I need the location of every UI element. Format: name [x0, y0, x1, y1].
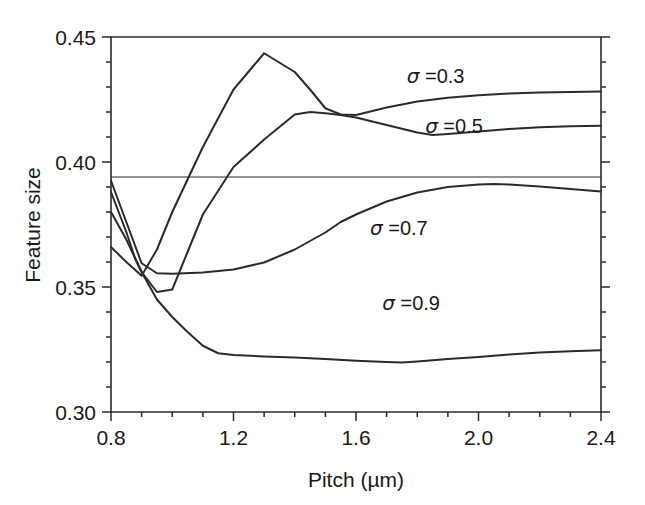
series-label-4: σ =0.9 [382, 291, 440, 315]
figure-container: 0.81.21.62.02.4 0.300.350.400.45 σ =0.3σ… [0, 0, 645, 505]
y-axis-tick-labels: 0.300.350.400.45 [55, 26, 96, 424]
x-axis-title: Pitch (µm) [308, 468, 404, 491]
y-tick-label: 0.30 [55, 401, 96, 424]
curve-series-2 [111, 112, 601, 292]
series-label-3: σ =0.7 [370, 216, 428, 240]
curve-series-4 [111, 212, 601, 363]
x-tick-label: 1.6 [341, 426, 370, 449]
y-tick-label: 0.40 [55, 151, 96, 174]
axis-ticks [102, 37, 610, 421]
series-label-1: σ =0.3 [407, 64, 465, 88]
series-label-2: σ =0.5 [425, 114, 483, 138]
x-tick-label: 2.0 [464, 426, 493, 449]
y-tick-label: 0.35 [55, 276, 96, 299]
x-tick-label: 2.4 [586, 426, 616, 449]
data-curves [111, 53, 601, 362]
y-axis-title: Feature size [21, 167, 44, 283]
x-axis-tick-labels: 0.81.21.62.02.4 [96, 426, 616, 449]
y-tick-label: 0.45 [55, 26, 96, 49]
feature-size-vs-pitch-chart: 0.81.21.62.02.4 0.300.350.400.45 σ =0.3σ… [0, 0, 645, 505]
curve-series-1 [111, 53, 601, 276]
series-labels: σ =0.3σ =0.5σ =0.7σ =0.9 [370, 64, 483, 316]
x-tick-label: 0.8 [96, 426, 125, 449]
x-tick-label: 1.2 [219, 426, 248, 449]
